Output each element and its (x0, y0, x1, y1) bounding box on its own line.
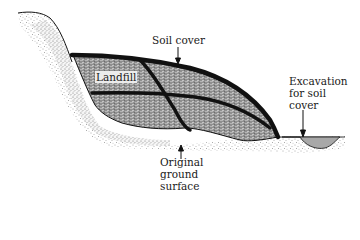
soil-cover-label: Soil cover (152, 34, 205, 46)
ground-label-line1: Original (160, 156, 203, 168)
ground-label-line3: surface (160, 180, 199, 192)
ground-label-line2: ground (160, 168, 198, 180)
landfill-label: Landfill (95, 71, 137, 83)
excavation-label-line3: cover (289, 99, 318, 111)
excavation-label-line1: Excavation (289, 75, 348, 87)
excavation-label-line2: for soil (289, 87, 326, 99)
